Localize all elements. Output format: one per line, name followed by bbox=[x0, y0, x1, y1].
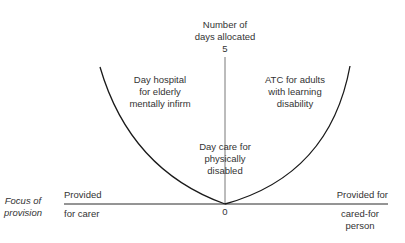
y-axis-max-label: 5 bbox=[215, 43, 235, 55]
origin-label: 0 bbox=[215, 206, 235, 218]
x-axis-left-bottom: for carer bbox=[64, 208, 99, 220]
y-axis-title: Number of days allocated bbox=[185, 19, 265, 43]
x-axis-left-top: Provided bbox=[64, 189, 102, 201]
region-label-day-hospital: Day hospital for elderly mentally infirm bbox=[118, 74, 202, 110]
region-label-atc: ATC for adults with learning disability bbox=[253, 74, 337, 110]
x-axis-title: Focus of provision bbox=[0, 195, 46, 219]
x-axis-right-top: Provided for bbox=[320, 189, 388, 201]
region-label-day-care: Day care for physically disabled bbox=[185, 141, 265, 177]
x-axis-right-bottom: cared-for person bbox=[330, 208, 390, 232]
